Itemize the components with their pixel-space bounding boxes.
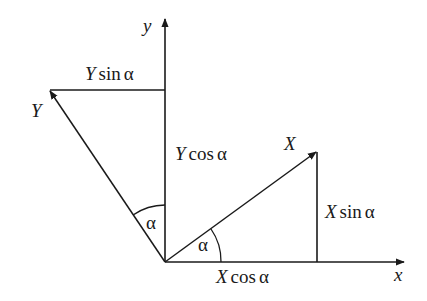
x-axis-label: x xyxy=(393,264,403,285)
angle-label-right: α xyxy=(198,234,208,255)
vector-diagram: y x Y X Ysinα Ycosα Xsinα Xcosα α α xyxy=(0,0,427,301)
vector-X-label: X xyxy=(283,133,297,154)
Y-cos-label: Ycosα xyxy=(175,143,227,164)
y-axis-label: y xyxy=(141,15,152,36)
vector-Y xyxy=(50,91,165,262)
Y-sin-label: Ysinα xyxy=(85,63,134,84)
vector-X xyxy=(165,152,316,262)
angle-label-left: α xyxy=(146,212,156,233)
X-cos-label: Xcosα xyxy=(215,266,269,287)
X-sin-label: Xsinα xyxy=(324,201,375,222)
vector-Y-label: Y xyxy=(31,100,44,121)
angle-arc-right xyxy=(211,229,221,262)
